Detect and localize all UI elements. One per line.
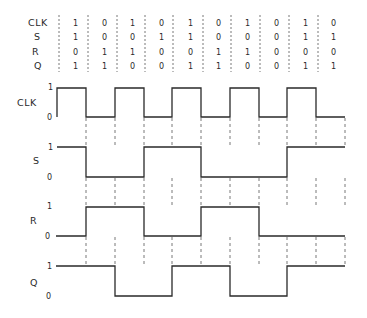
s-waveform xyxy=(57,147,345,177)
r-waveform xyxy=(56,207,345,236)
clk-waveform xyxy=(57,88,345,117)
timing-waveforms xyxy=(0,0,367,318)
q-waveform xyxy=(56,266,345,296)
